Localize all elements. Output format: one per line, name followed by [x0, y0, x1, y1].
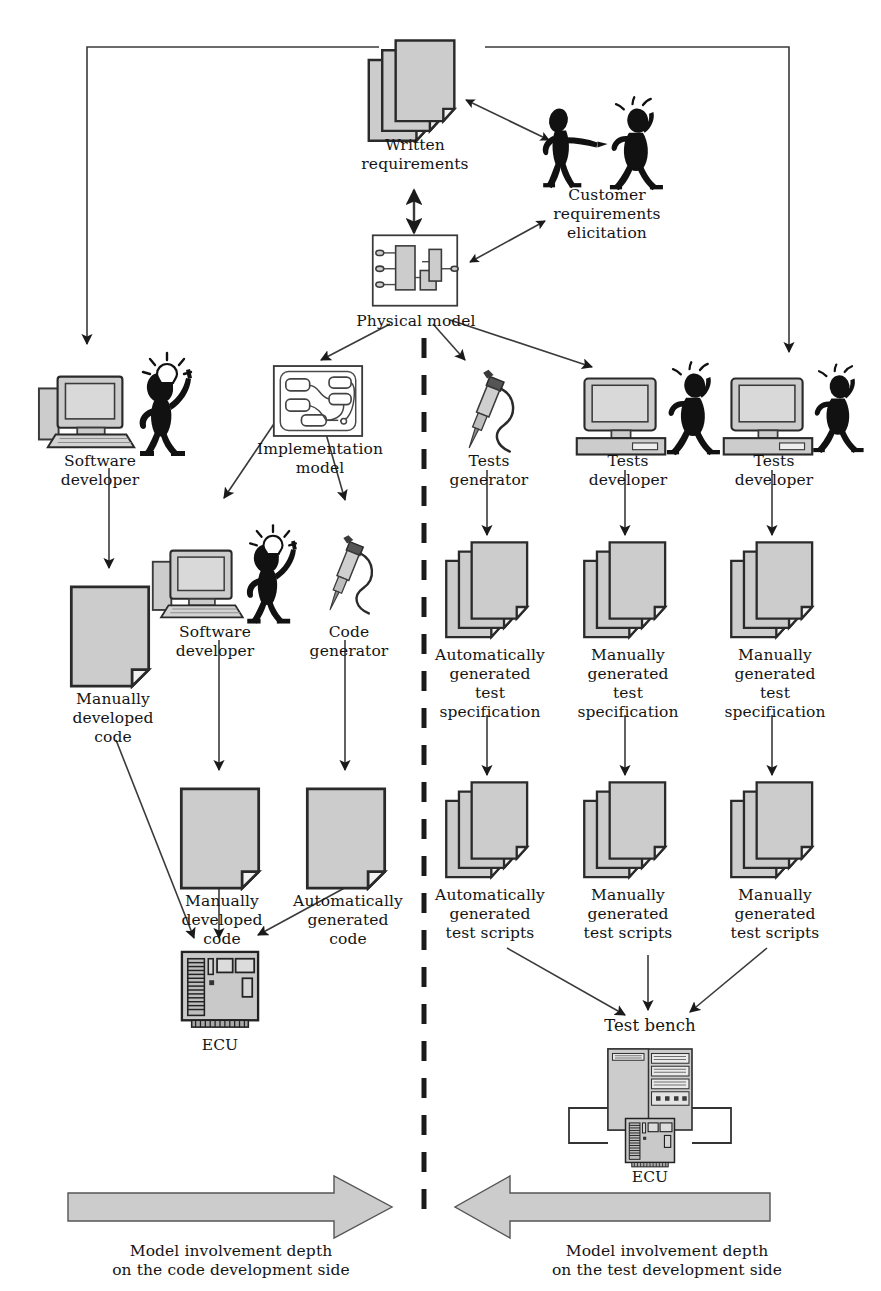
label-auto-test-specification: Automatically generated test specificati…	[420, 646, 560, 722]
label-software-developer-left: Software developer	[25, 452, 175, 490]
label-manually-developed-code-left: Manually developed code	[38, 690, 188, 747]
label-software-developer-middle: Software developer	[140, 623, 290, 661]
physical-model	[373, 235, 458, 305]
manually-generated-test-specification-1	[584, 542, 665, 637]
label-physical-model: Physical model	[330, 312, 502, 331]
automatically-generated-test-scripts	[446, 782, 527, 877]
caption-code-side-arrow: Model involvement depth on the code deve…	[44, 1242, 418, 1280]
label-written-requirements: Written requirements	[341, 136, 489, 174]
software-developer-left	[39, 353, 192, 456]
edge-manual-scripts2-to-test-bench	[690, 948, 767, 1012]
ecu-left	[182, 952, 258, 1027]
tests-developer-middle	[577, 362, 720, 455]
manually-developed-code-middle	[181, 789, 258, 888]
tests-developer-right	[724, 365, 864, 455]
code-generator	[316, 534, 372, 614]
edge-requirements-to-software-developer	[87, 47, 379, 344]
manually-generated-test-specification-2	[731, 542, 812, 637]
label-tests-generator: Tests generator	[434, 452, 544, 490]
label-implementation-model: Implementation model	[242, 440, 398, 478]
written-requirements	[369, 40, 455, 140]
label-manual-test-specification-1: Manually generated test specification	[558, 646, 698, 722]
code-side-arrow	[68, 1176, 392, 1238]
automatically-generated-test-specification	[446, 542, 527, 637]
label-ecu-bench: ECU	[600, 1168, 700, 1187]
tests-generator	[455, 368, 513, 451]
edge-auto-scripts-to-test-bench	[507, 948, 625, 1015]
automatically-generated-code	[307, 789, 384, 888]
label-auto-test-scripts: Automatically generated test scripts	[420, 886, 560, 943]
software-developer-middle	[153, 525, 297, 623]
label-manual-test-specification-2: Manually generated test specification	[705, 646, 845, 722]
label-tests-developer-middle: Tests developer	[566, 452, 690, 490]
label-code-generator: Code generator	[293, 623, 405, 661]
diagram-page: Written requirements Customer requiremen…	[0, 0, 881, 1291]
customer-requirements-elicitation	[543, 97, 663, 190]
label-test-bench: Test bench	[578, 1016, 722, 1036]
label-tests-developer-right: Tests developer	[712, 452, 836, 490]
caption-test-side-arrow: Model involvement depth on the test deve…	[470, 1242, 864, 1280]
edge-requirements-customer	[466, 100, 549, 140]
ecu-bench	[626, 1119, 675, 1167]
label-manual-test-scripts-2: Manually generated test scripts	[705, 886, 845, 943]
label-customer-requirements: Customer requirements elicitation	[516, 186, 698, 243]
implementation-model	[274, 366, 362, 436]
label-automatically-generated-code: Automatically generated code	[272, 892, 424, 949]
manually-generated-test-scripts-1	[584, 782, 665, 877]
manually-generated-test-scripts-2	[731, 782, 812, 877]
label-manual-test-scripts-1: Manually generated test scripts	[558, 886, 698, 943]
label-ecu-left: ECU	[170, 1036, 270, 1055]
manually-developed-code-left	[71, 587, 148, 686]
